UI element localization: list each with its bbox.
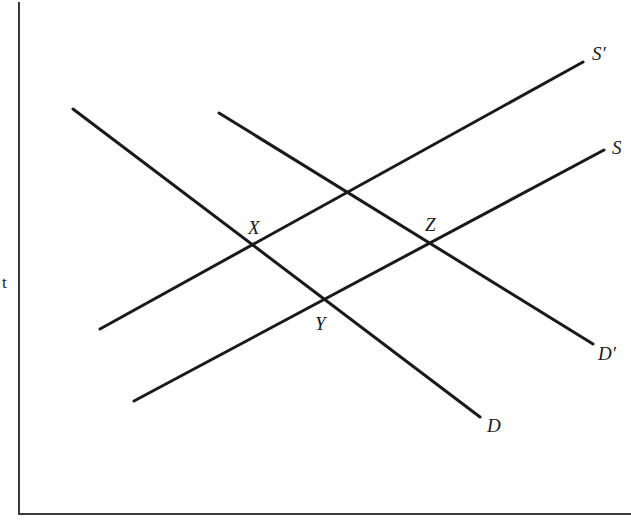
label-s-prime: S′ — [592, 43, 607, 64]
demand-curve-d — [73, 109, 480, 417]
demand-curve-d-prime — [219, 113, 593, 344]
label-d: D — [486, 415, 501, 436]
point-label-x: X — [247, 217, 261, 238]
label-s: S — [612, 137, 622, 158]
point-label-z: Z — [425, 214, 436, 235]
supply-demand-diagram: t S′ S D′ D X Y Z — [0, 0, 631, 526]
y-axis-label: t — [2, 273, 7, 292]
label-d-prime: D′ — [597, 343, 617, 364]
point-label-y: Y — [315, 313, 328, 334]
supply-curve-s — [134, 150, 604, 401]
